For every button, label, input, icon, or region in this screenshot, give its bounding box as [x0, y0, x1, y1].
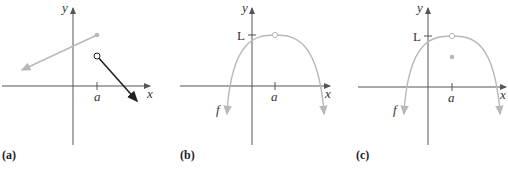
panel-c: a L x y f (c) — [338, 0, 508, 170]
tick-a-label: a — [94, 89, 101, 104]
hole-circle — [272, 32, 277, 37]
hole-circle — [449, 33, 454, 38]
tick-L-label: L — [413, 29, 421, 44]
graph-b: a L x y f (b) — [170, 0, 340, 170]
y-axis-label: y — [415, 0, 423, 15]
left-ray — [22, 35, 97, 70]
filled-point — [450, 55, 455, 60]
open-circle — [94, 53, 100, 59]
x-axis-label: x — [499, 87, 506, 102]
x-axis-label: x — [146, 86, 153, 101]
panel-a: a x y (a) — [0, 0, 170, 170]
graph-c: a L x y f (c) — [338, 0, 508, 170]
right-ray — [97, 56, 137, 101]
panel-b: a L x y f (b) — [170, 0, 340, 170]
caption-c: (c) — [356, 148, 369, 162]
curve-label-f: f — [216, 102, 222, 117]
caption-b: (b) — [180, 148, 195, 162]
y-axis-label: y — [240, 0, 248, 15]
curve-label-f: f — [393, 102, 399, 117]
tick-a-label: a — [448, 90, 455, 105]
y-axis-label: y — [60, 0, 68, 15]
caption-a: (a) — [2, 148, 16, 162]
graph-a: a x y (a) — [0, 0, 170, 170]
tick-L-label: L — [237, 28, 245, 43]
x-axis-label: x — [324, 86, 331, 101]
tick-a-label: a — [271, 89, 278, 104]
filled-point — [95, 33, 100, 38]
